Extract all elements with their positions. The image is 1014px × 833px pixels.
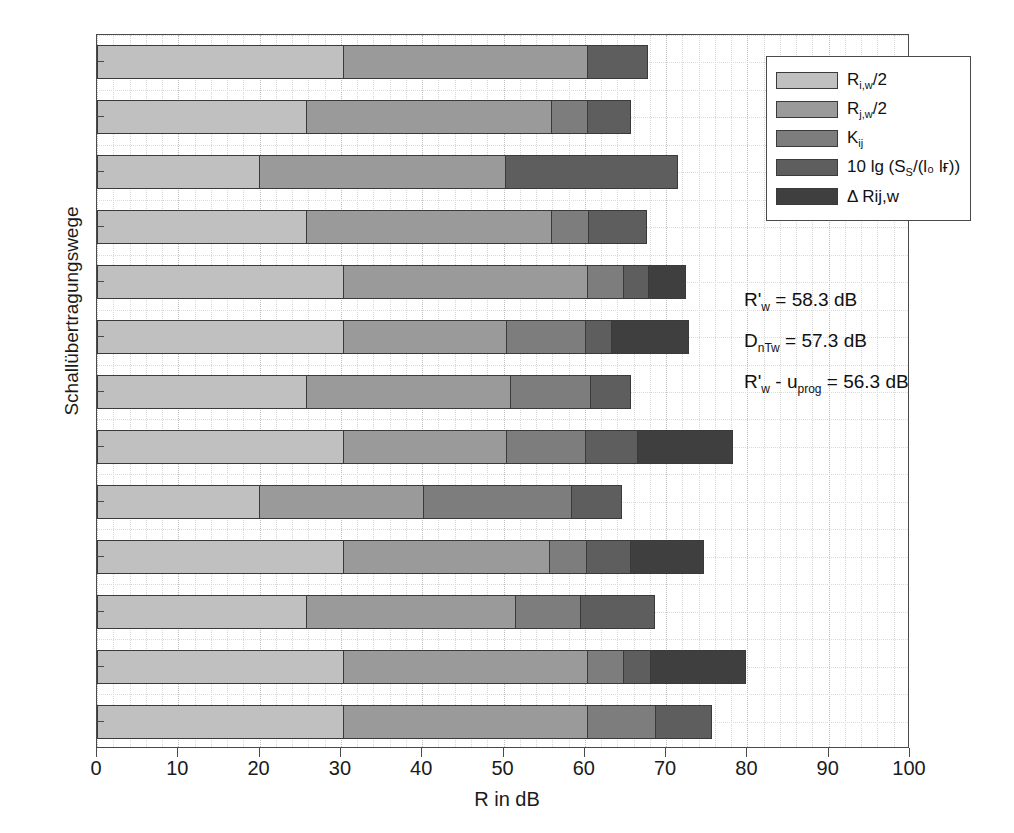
annotation-rw-uprog: R'w - uprog = 56.3 dB	[744, 365, 994, 406]
x-tick-label-10: 10	[147, 757, 207, 780]
bar-segment-R_jw_half	[343, 320, 506, 354]
x-tick-label-40: 40	[391, 757, 451, 780]
bar-segment-R_jw_half	[343, 430, 506, 464]
bar-segment-R_jw_half	[306, 210, 552, 244]
bar-segment-ten_lg_S	[587, 100, 631, 134]
bar-row	[97, 705, 712, 739]
y-tick-mark	[96, 116, 104, 117]
bar-segment-ten_lg_S	[585, 320, 612, 354]
x-tick-mark	[177, 748, 178, 757]
bar-segment-R_iw_half	[97, 155, 260, 189]
bar-segment-ten_lg_S	[623, 650, 651, 684]
bar-row	[97, 430, 733, 464]
chart-figure: Schallübertragungswege Dd1d2d3d4dD111D22…	[0, 0, 1014, 833]
bar-segment-ten_lg_S	[590, 375, 631, 409]
bar-segment-ten_lg_S	[623, 265, 649, 299]
bar-segment-delta_Rij_w	[648, 265, 686, 299]
bar-segment-R_jw_half	[343, 265, 588, 299]
y-tick-mark	[96, 281, 104, 282]
bar-segment-delta_Rij_w	[611, 320, 689, 354]
y-tick-mark	[96, 391, 104, 392]
x-tick-mark	[584, 748, 585, 757]
legend-item: 10 lg (SS/(l₀ lғ))	[776, 153, 962, 182]
bar-segment-R_jw_half	[343, 540, 550, 574]
bar-segment-K_ij	[551, 210, 589, 244]
bar-segment-R_iw_half	[97, 45, 344, 79]
x-tick-mark	[340, 748, 341, 757]
y-tick-mark	[96, 226, 104, 227]
legend-swatch-icon	[776, 188, 838, 205]
bar-segment-R_iw_half	[97, 595, 307, 629]
x-tick-label-60: 60	[554, 757, 614, 780]
bar-segment-K_ij	[423, 485, 573, 519]
x-tick-label-90: 90	[798, 757, 858, 780]
bar-segment-R_jw_half	[343, 705, 588, 739]
bar-segment-delta_Rij_w	[650, 650, 746, 684]
legend-item: Ri,w/2	[776, 66, 962, 95]
bar-segment-K_ij	[587, 705, 656, 739]
bar-row	[97, 155, 678, 189]
y-tick-mark	[96, 666, 104, 667]
y-tick-mark	[96, 336, 104, 337]
bar-segment-ten_lg_S	[571, 485, 622, 519]
legend-item-label: Kij	[847, 128, 863, 149]
bar-segment-K_ij	[510, 375, 590, 409]
bar-segment-K_ij	[587, 265, 624, 299]
bar-row	[97, 265, 686, 299]
bar-segment-ten_lg_S	[585, 430, 638, 464]
legend-item-label: Ri,w/2	[847, 70, 887, 91]
bar-row	[97, 210, 647, 244]
annotation-rw-value: = 58.3 dB	[775, 289, 857, 310]
bar-segment-R_iw_half	[97, 210, 307, 244]
bar-segment-ten_lg_S	[580, 595, 655, 629]
bar-segment-R_iw_half	[97, 650, 344, 684]
annotation-dntw: DnTw = 57.3 dB	[744, 324, 994, 365]
y-tick-mark	[96, 171, 104, 172]
bar-segment-K_ij	[506, 430, 586, 464]
x-tick-mark	[421, 748, 422, 757]
x-tick-label-80: 80	[716, 757, 776, 780]
legend-swatch-icon	[776, 130, 838, 147]
x-tick-mark	[746, 748, 747, 757]
bar-segment-R_iw_half	[97, 100, 307, 134]
x-tick-mark	[503, 748, 504, 757]
legend-item: Rj,w/2	[776, 95, 962, 124]
y-axis-title: Schallübertragungswege	[61, 181, 83, 441]
annotation-dntw-value: = 57.3 dB	[785, 330, 867, 351]
bar-segment-delta_Rij_w	[637, 430, 733, 464]
legend-swatch-icon	[776, 72, 838, 89]
legend-item-label: Δ Rij,w	[847, 187, 899, 207]
annotation-rw-uprog-value: = 56.3 dB	[827, 371, 909, 392]
bar-segment-ten_lg_S	[655, 705, 712, 739]
legend-item-label: 10 lg (SS/(l₀ lғ))	[847, 157, 960, 178]
y-tick-mark	[96, 611, 104, 612]
x-tick-mark	[828, 748, 829, 757]
x-tick-label-20: 20	[229, 757, 289, 780]
legend-swatch-icon	[776, 101, 838, 118]
x-axis-title: R in dB	[0, 788, 1014, 811]
bar-segment-R_iw_half	[97, 320, 344, 354]
x-tick-mark	[665, 748, 666, 757]
y-tick-mark	[96, 721, 104, 722]
legend-item: Δ Rij,w	[776, 182, 962, 211]
y-tick-mark	[96, 61, 104, 62]
bar-segment-ten_lg_S	[587, 45, 648, 79]
bar-segment-R_iw_half	[97, 540, 344, 574]
bar-segment-R_jw_half	[306, 100, 552, 134]
bar-row	[97, 100, 631, 134]
bar-segment-ten_lg_S	[586, 540, 632, 574]
bar-segment-R_iw_half	[97, 430, 344, 464]
annotation-rw: R'w = 58.3 dB	[744, 283, 994, 324]
x-tick-label-0: 0	[66, 757, 126, 780]
x-tick-label-30: 30	[310, 757, 370, 780]
bar-segment-R_iw_half	[97, 265, 344, 299]
bar-segment-K_ij	[551, 100, 588, 134]
bar-segment-R_iw_half	[97, 705, 344, 739]
bar-segment-R_jw_half	[343, 650, 588, 684]
annotation-rw-symbol: R'w	[744, 289, 770, 310]
bar-segment-ten_lg_S	[588, 210, 647, 244]
y-tick-mark	[96, 446, 104, 447]
bar-segment-R_jw_half	[259, 485, 424, 519]
bar-row	[97, 45, 648, 79]
bar-segment-K_ij	[587, 650, 624, 684]
